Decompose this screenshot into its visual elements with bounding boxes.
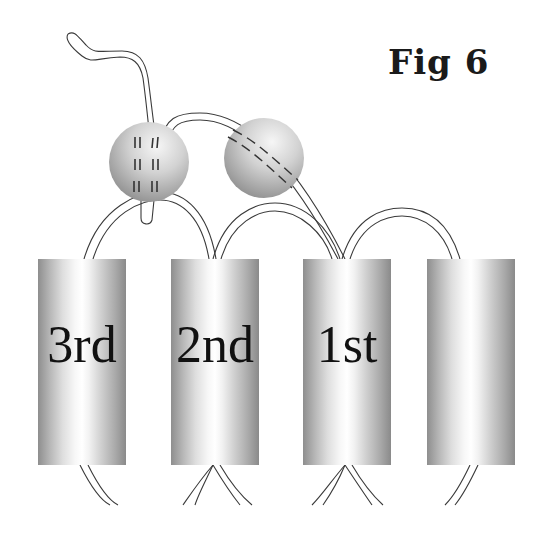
- bottom-1st-b: [323, 465, 345, 505]
- bottom-3rd-a: [80, 465, 110, 505]
- sphere-right: [224, 118, 304, 198]
- loop-3rd-2nd-inner: [93, 200, 209, 259]
- clasp: [141, 200, 154, 224]
- bottom-loops: [80, 465, 478, 505]
- helix-1st: 1st: [303, 259, 391, 465]
- helix-label: 2nd: [171, 319, 259, 371]
- figure: Fig 6 3rd 2nd 1st: [0, 0, 539, 535]
- loop-1st-4th-inner: [350, 216, 452, 259]
- helix-label: 1st: [303, 319, 391, 371]
- loop-3rd-2nd-outer: [84, 192, 216, 259]
- figure-title: Fig 6: [388, 42, 489, 82]
- helix-3rd: 3rd: [38, 259, 126, 465]
- bottom-3rd-b: [88, 465, 118, 505]
- sphere-left: [109, 122, 189, 202]
- bottom-4th-a: [445, 465, 470, 505]
- helix-2nd: 2nd: [171, 259, 259, 465]
- helix-label: 3rd: [38, 319, 126, 371]
- bottom-1st-a: [312, 465, 345, 505]
- bottom-1st-c: [345, 465, 372, 505]
- bottom-2nd-a: [183, 465, 213, 505]
- helix-4th: [427, 259, 515, 465]
- loop-2nd-1st-inner: [221, 211, 332, 259]
- bottom-2nd-c: [213, 465, 240, 505]
